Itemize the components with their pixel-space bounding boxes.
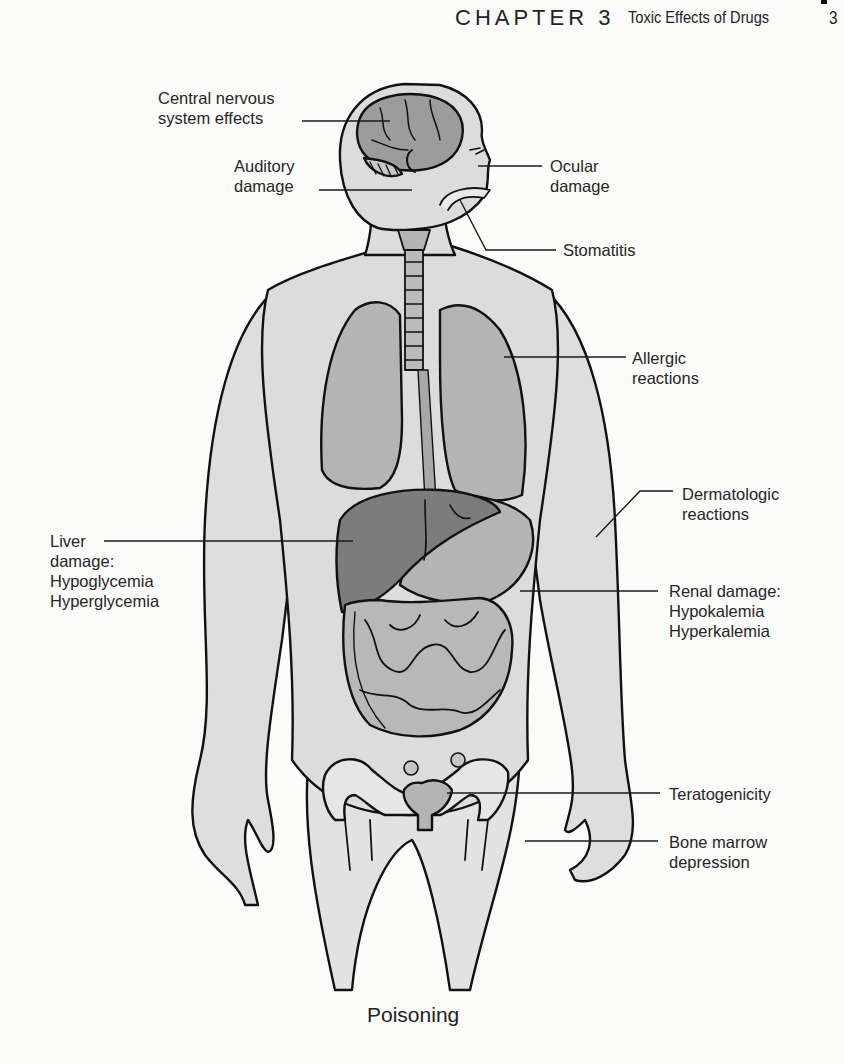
label-ocular: Ocular damage — [550, 156, 610, 196]
label-teratogenicity: Teratogenicity — [669, 784, 771, 804]
label-auditory: Auditory damage — [234, 156, 295, 196]
label-liver: Liver damage: Hypoglycemia Hyperglycemia — [50, 531, 159, 611]
label-dermatologic: Dermatologic reactions — [682, 484, 779, 524]
ovary-left — [404, 761, 418, 775]
larynx — [398, 230, 430, 250]
label-stomatitis: Stomatitis — [563, 240, 635, 260]
ovary-right — [451, 753, 465, 767]
label-renal: Renal damage: Hypokalemia Hyperkalemia — [669, 581, 781, 641]
label-bone-marrow: Bone marrow depression — [669, 832, 767, 872]
trachea — [405, 250, 423, 370]
label-allergic: Allergic reactions — [632, 348, 699, 388]
figure-caption: Poisoning — [367, 1003, 459, 1027]
label-cns: Central nervous system effects — [158, 88, 274, 128]
